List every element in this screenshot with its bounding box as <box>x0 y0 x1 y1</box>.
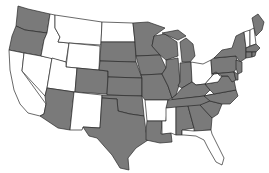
state-mt <box>55 15 102 45</box>
state-sd <box>100 42 136 62</box>
state-ri <box>252 52 256 57</box>
state-ar <box>145 100 168 121</box>
state-nd <box>101 22 135 42</box>
state-co <box>75 68 108 94</box>
state-wy <box>66 43 100 70</box>
state-ks <box>107 77 142 96</box>
state-az <box>40 88 74 130</box>
state-nm <box>70 92 102 130</box>
us-map <box>0 0 269 173</box>
state-pa <box>211 56 238 74</box>
state-nj <box>236 60 242 74</box>
state-ct <box>246 52 252 58</box>
state-ia <box>136 55 166 75</box>
state-fl <box>182 130 224 165</box>
